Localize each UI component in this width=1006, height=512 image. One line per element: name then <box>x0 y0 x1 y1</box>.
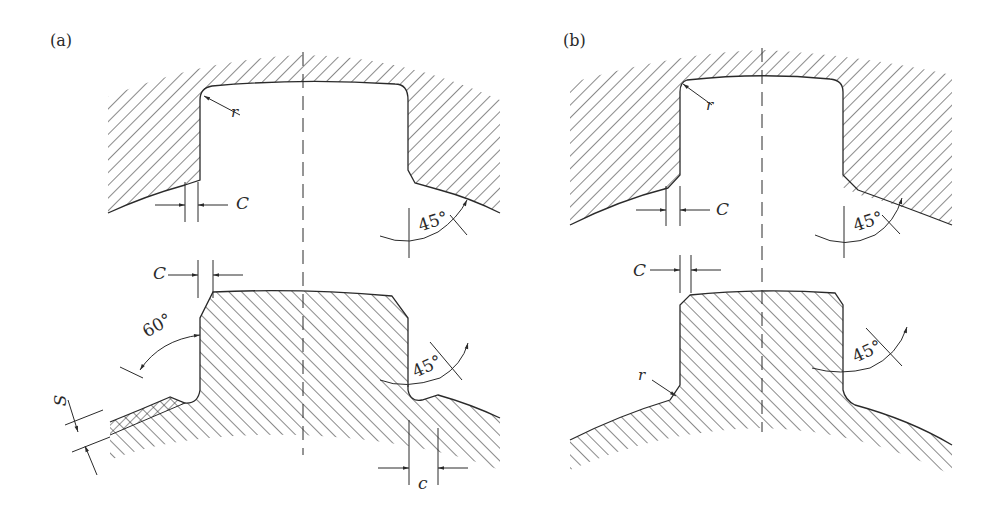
chamfer-label-b-upper: C <box>716 201 729 218</box>
chamfer-label-a-upper: C <box>236 195 249 212</box>
radius-label-b-lower: r <box>638 368 645 383</box>
panel-b-label: (b) <box>563 33 586 49</box>
thickness-label-s: S <box>52 395 69 407</box>
lower-rotor-b <box>570 291 952 475</box>
panel-b <box>570 48 952 475</box>
technical-drawing <box>0 0 1006 512</box>
panel-a-label: (a) <box>50 33 72 49</box>
radius-label-b-upper: r <box>706 98 713 113</box>
radius-label-a-upper: r <box>231 105 238 120</box>
gap-label-c: c <box>418 475 428 492</box>
upper-housing-a <box>108 55 500 213</box>
chamfer-label-a-lower: C <box>153 265 166 282</box>
figure: (a) r C 45° C 60° 45° S c (b) r C 45° C … <box>0 0 1006 512</box>
panel-a <box>65 52 500 485</box>
chamfer-label-b-lower: C <box>633 262 646 279</box>
